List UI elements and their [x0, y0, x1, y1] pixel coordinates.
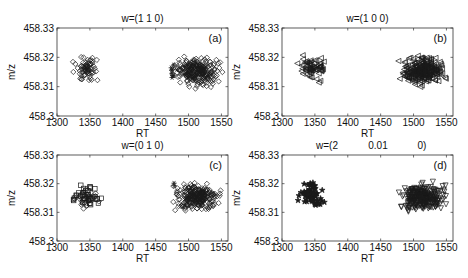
y-axis-label: m/z — [231, 64, 242, 80]
y-tick-label: 458.3 — [254, 111, 279, 122]
y-axis-label: m/z — [6, 190, 17, 206]
x-tick-label: 1350 — [79, 242, 102, 253]
x-tick-label: 1500 — [177, 242, 200, 253]
y-tick-label: 458.32 — [23, 178, 54, 189]
x-axis-label: RT — [136, 253, 149, 264]
x-tick-label: 1350 — [79, 117, 102, 128]
panel-title: 0) — [418, 140, 427, 151]
x-tick-label: 1500 — [402, 117, 425, 128]
y-tick-label: 458.33 — [248, 23, 279, 34]
y-axis-label: m/z — [6, 64, 17, 80]
y-tick-label: 458.3 — [254, 236, 279, 247]
x-tick-label: 1500 — [177, 117, 200, 128]
x-tick-label: 1400 — [112, 117, 135, 128]
x-tick-label: 1450 — [145, 242, 168, 253]
panel-label: (b) — [434, 32, 447, 44]
panel-b: 130013501400145015001550458.3458.31458.3… — [231, 13, 458, 139]
x-tick-label: 1400 — [112, 242, 135, 253]
x-tick-label: 1550 — [435, 117, 458, 128]
x-tick-label: 1450 — [370, 117, 393, 128]
panel-title: w=(0 1 0) — [121, 140, 164, 151]
panel-label: (d) — [434, 159, 447, 171]
x-axis-label: RT — [136, 128, 149, 139]
x-tick-label: 1350 — [304, 117, 327, 128]
panel-label: (c) — [209, 159, 222, 171]
x-tick-label: 1450 — [370, 242, 393, 253]
x-tick-label: 1500 — [402, 242, 425, 253]
panel-title: w=(2 — [315, 140, 338, 151]
panel-title: w=(1 1 0) — [121, 13, 164, 24]
y-tick-label: 458.31 — [248, 207, 279, 218]
y-tick-label: 458.33 — [23, 150, 54, 161]
panel-label: (a) — [209, 32, 222, 44]
y-tick-label: 458.31 — [248, 81, 279, 92]
x-tick-label: 1450 — [145, 117, 168, 128]
panel-title: w=(1 0 0) — [346, 13, 389, 24]
x-tick-label: 1350 — [304, 242, 327, 253]
x-tick-label: 1550 — [210, 117, 233, 128]
scatter-points — [71, 180, 223, 213]
y-tick-label: 458.32 — [248, 178, 279, 189]
y-tick-label: 458.33 — [248, 150, 279, 161]
figure: 130013501400145015001550458.3458.31458.3… — [0, 0, 468, 278]
scatter-points — [295, 53, 449, 90]
y-tick-label: 458.31 — [23, 81, 54, 92]
y-tick-label: 458.33 — [23, 23, 54, 34]
y-tick-label: 458.31 — [23, 207, 54, 218]
x-tick-label: 1550 — [435, 242, 458, 253]
panel-c: 130013501400145015001550458.3458.31458.3… — [6, 140, 233, 264]
x-tick-label: 1400 — [337, 117, 360, 128]
y-tick-label: 458.32 — [23, 52, 54, 63]
scatter-points — [295, 179, 448, 214]
y-tick-label: 458.3 — [29, 111, 54, 122]
y-tick-label: 458.3 — [29, 236, 54, 247]
panel-title: 0.01 — [368, 140, 388, 151]
x-axis-label: RT — [361, 253, 374, 264]
x-axis-label: RT — [361, 128, 374, 139]
y-axis-label: m/z — [231, 190, 242, 206]
panel-a: 130013501400145015001550458.3458.31458.3… — [6, 13, 233, 139]
y-tick-label: 458.32 — [248, 52, 279, 63]
panel-d: 130013501400145015001550458.3458.31458.3… — [231, 140, 458, 264]
scatter-points — [70, 54, 225, 91]
x-tick-label: 1400 — [337, 242, 360, 253]
x-tick-label: 1550 — [210, 242, 233, 253]
